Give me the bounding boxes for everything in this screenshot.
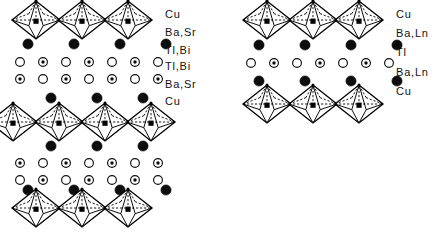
dotted-atom-core [133,178,136,181]
ba-sr-row-3 [46,141,148,151]
cu-octahedron [12,188,60,228]
open-atom [154,58,163,67]
filled-atom [161,185,171,195]
dotted-atom-core [156,77,159,80]
filled-atom [46,93,56,103]
open-atom [16,58,25,67]
cu-octahedron [104,0,152,39]
atom-species-label: Tl,Bi [165,60,191,72]
cu-center-atom [356,103,361,108]
atom-species-label: Ba,Sr [165,26,197,38]
cu-center-atom [264,19,269,24]
cu-octahedron [12,0,60,39]
cu-center-atom [79,207,84,212]
cu-octahedron [58,188,106,228]
cu-center-atom [33,207,38,212]
dotted-atom-core [87,178,90,181]
filled-atom [346,76,356,86]
cu-center-atom [10,121,15,126]
apex-oxygen-atom [81,188,84,191]
tl-bi-row-1 [16,58,163,67]
apex-oxygen-atom [12,102,15,105]
dotted-atom-core [41,60,44,63]
ba-sr-row-1 [23,39,171,49]
open-atom [339,59,348,68]
filled-atom [115,39,125,49]
dotted-atom-core [156,161,159,164]
ba-ln-row-bottom [254,76,402,86]
cu-center-atom [264,103,269,108]
open-atom [85,75,94,84]
tl-row [247,59,394,68]
cu-octahedra-row-top [243,0,383,39]
cu-octahedra-row-bottom [243,84,383,124]
tl-bi-row-2 [16,75,163,84]
crystal-structure-figure: CuBa,SrTl,BiTl,BiBa,SrCuCuBa,LnTlBa,LnCu [0,0,442,234]
tl-bi-row-4 [16,176,163,185]
filled-atom [300,40,310,50]
open-atom [247,59,256,68]
dotted-atom-core [18,161,21,164]
open-atom [131,75,140,84]
open-atom [62,176,71,185]
filled-atom [254,40,264,50]
dotted-atom-core [133,60,136,63]
filled-atom [92,141,102,151]
open-atom [108,176,117,185]
cu-octahedron [81,102,129,142]
cu-center-atom [79,19,84,24]
panels-layer [0,0,402,227]
atom-species-label: Cu [396,85,412,97]
filled-atom [46,141,56,151]
dotted-atom-core [110,77,113,80]
cu-octahedra-row-middle [0,102,175,142]
cu-octahedron [104,188,152,228]
cu-octahedron [289,84,337,124]
dotted-atom-core [18,77,21,80]
open-atom [16,176,25,185]
filled-atom [92,93,102,103]
cu-center-atom [356,19,361,24]
atom-species-label: Ba,Ln [396,66,429,78]
atom-species-label: Cu [165,95,181,107]
cu-octahedron [58,0,106,39]
open-atom [131,159,140,168]
open-atom [62,58,71,67]
filled-atom [300,76,310,86]
cu-octahedron [35,102,83,142]
apex-oxygen-atom [104,102,107,105]
filled-atom [254,76,264,86]
cu-octahedra-row-bottom [12,188,152,228]
dotted-atom-core [318,61,321,64]
atom-species-label: Ba,Sr [165,78,197,90]
cu-octahedron [127,102,175,142]
dotted-atom-core [272,61,275,64]
cu-octahedron [289,0,337,39]
filled-atom [346,40,356,50]
cu-center-atom [310,103,315,108]
ba-sr-row-2 [46,93,148,103]
atom-species-label: Cu [165,8,181,20]
dotted-atom-core [41,178,44,181]
cu-octahedron [243,84,291,124]
cu-center-atom [125,207,130,212]
structure-canvas: CuBa,SrTl,BiTl,BiBa,SrCuCuBa,LnTlBa,LnCu [0,0,442,234]
cu-center-atom [33,19,38,24]
open-atom [385,59,394,68]
tl-bi-double-layer-structure [0,0,175,227]
open-atom [108,58,117,67]
apex-oxygen-atom [35,188,38,191]
open-atom [293,59,302,68]
cu-octahedron [243,0,291,39]
filled-atom [69,39,79,49]
filled-atom [138,93,148,103]
apex-oxygen-atom [150,102,153,105]
tl-bi-row-3 [16,159,163,168]
open-atom [85,159,94,168]
cu-octahedra-row-top [12,0,152,39]
apex-oxygen-atom [127,188,130,191]
atom-species-label: Cu [396,8,412,20]
dotted-atom-core [87,60,90,63]
open-atom [154,176,163,185]
atom-species-label: Tl [396,46,407,58]
